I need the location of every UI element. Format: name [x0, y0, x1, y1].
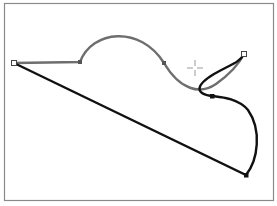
- black-anchor-2[interactable]: [244, 173, 249, 178]
- gray-anchor-2[interactable]: [162, 61, 166, 65]
- canvas-frame: [5, 4, 274, 201]
- black-anchor-1[interactable]: [210, 94, 215, 99]
- end-anchor[interactable]: [242, 52, 247, 57]
- gray-anchor-1[interactable]: [78, 60, 82, 64]
- bezier-pen-canvas[interactable]: [0, 0, 277, 206]
- start-anchor[interactable]: [12, 61, 17, 66]
